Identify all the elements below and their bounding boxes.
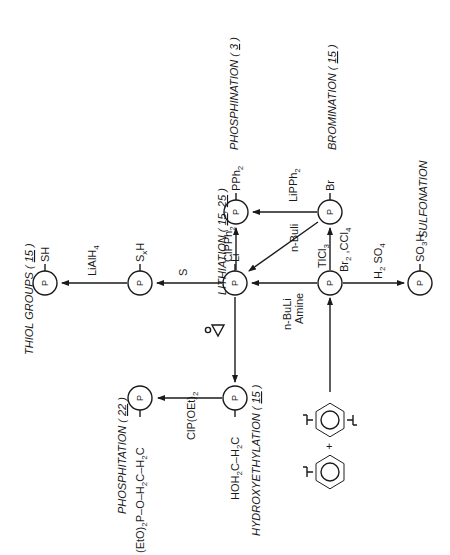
label-phosphination: PHOSPHINATION ( 3 ) (228, 37, 240, 150)
styrene-icon (303, 455, 344, 489)
label-phosphitation: PHOSPHITATION ( 22 ) (116, 397, 128, 514)
svg-text:P: P (135, 395, 145, 401)
plus-sign: + (326, 440, 332, 452)
ethylene-oxide-icon (205, 325, 224, 336)
group-br: Br (324, 180, 336, 191)
svg-text:P: P (415, 280, 425, 286)
node-bromo: P (318, 200, 342, 224)
reagent-lipph2: LiPPh2 (287, 168, 302, 202)
svg-text:P: P (230, 280, 240, 286)
group-hydroxyethyl: HOH2C–H2C (229, 437, 244, 500)
reaction-scheme: P P P P P P P P P Li PPh2 Br SO3H S (0, 0, 450, 555)
svg-text:P: P (40, 280, 50, 286)
reagent-tlcl3: TlCl3 (316, 243, 331, 268)
group-phosphitate: (EtO)2P–O–H2C–H2C (134, 447, 149, 553)
label-hydroxyethylation: HYDROXYETHYLATION ( 15 ) (250, 384, 262, 536)
reagent-s: S (177, 269, 189, 276)
node-hydroxyethyl: P (223, 386, 247, 410)
group-sh: SH (39, 247, 51, 262)
reagent-lialh4: LiAlH4 (86, 245, 101, 276)
label-thiol-groups: THIOL GROUPS ( 15 ) (23, 243, 35, 355)
group-pph2: PPh2 (230, 165, 245, 191)
arrow-bromo-to-lithio (249, 222, 318, 271)
svg-text:P: P (231, 209, 241, 215)
svg-text:P: P (325, 209, 335, 215)
reagent-br2-ccl4: Br2 ,CCl4 (338, 227, 353, 272)
reagent-nbuli: n-BuLi (281, 298, 293, 330)
label-bromination: BROMINATION ( 15 ) (326, 44, 338, 150)
node-polysulfide: P (128, 271, 152, 295)
svg-text:P: P (135, 280, 145, 286)
reagent-nbuli-diag: n-Buli (288, 224, 300, 252)
svg-text:P: P (230, 395, 240, 401)
node-sulfo: P (408, 271, 432, 295)
reagent-h2so4: H2 SO4 (372, 243, 387, 279)
label-lithiation: LITHIATION ( 15, 25 ) (216, 188, 228, 295)
svg-text:P: P (325, 280, 335, 286)
node-center: P (318, 271, 342, 295)
reagent-amine: Amine (293, 293, 305, 324)
node-thiol: P (33, 271, 57, 295)
divinylbenzene-icon (303, 403, 357, 437)
group-sxh: SxH (134, 243, 149, 262)
node-phosphitate: P (128, 386, 152, 410)
label-sulfonation: SULFONATION (417, 161, 429, 238)
